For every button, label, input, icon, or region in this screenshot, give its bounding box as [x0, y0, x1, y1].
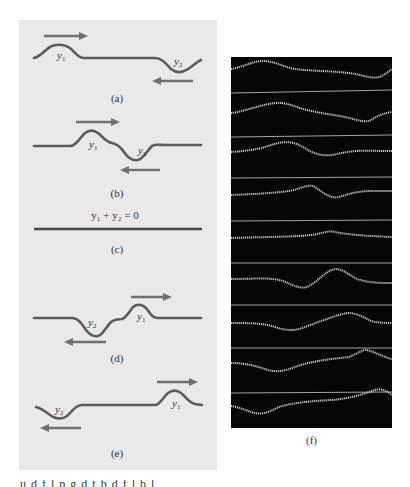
photo-frame-6: [231, 269, 392, 288]
label-y1-e: y1: [171, 397, 181, 411]
cropped-text-line: u d f l p g d t b d f l b l: [20, 480, 410, 487]
arrow-right-head-e: [189, 378, 198, 386]
photo-frame-4: [231, 186, 392, 198]
arrow-left-head-a: [152, 77, 161, 85]
label-y1-a: y1: [56, 49, 66, 63]
arrow-right-head-b: [111, 118, 120, 126]
label-y2-b: y2: [137, 144, 147, 158]
caption-d: (d): [111, 352, 124, 365]
string-wave-b: [34, 131, 201, 160]
label-y2-a: y2: [173, 55, 183, 69]
photo-frames: [231, 57, 392, 428]
panel-b: y1 y2 (b): [34, 118, 201, 200]
photo-frame-2: [231, 103, 392, 121]
photo-frame-7: [231, 313, 392, 330]
caption-f: (f): [231, 434, 392, 446]
arrow-left-head-e: [40, 424, 49, 432]
cropped-body-text: u d f l p g d t b d f l b l: [20, 480, 410, 487]
equation-c: y₁ + y₂ = 0: [91, 209, 139, 221]
label-y2-e: y2: [54, 403, 64, 417]
panel-d: y1 y2 (d): [34, 293, 201, 365]
photo-frame-1: [231, 61, 392, 78]
photo-flat-3: [231, 177, 392, 178]
label-y1-b: y1: [88, 138, 98, 152]
photo-frame-8: [231, 350, 392, 371]
label-y2-d: y2: [87, 316, 97, 330]
arrow-left-head-d: [64, 338, 73, 346]
caption-b: (b): [111, 187, 124, 200]
string-wave-d: [34, 305, 201, 336]
arrow-left-head-b: [120, 166, 129, 174]
caption-a: (a): [111, 92, 124, 105]
panel-c: y₁ + y₂ = 0 (c): [34, 209, 202, 256]
caption-e: (e): [111, 447, 124, 460]
label-y1-d: y1: [136, 310, 146, 324]
panel-a: y1 y2 (a): [34, 32, 201, 105]
photo-flat-4: [231, 220, 392, 221]
photo-frame-5: [231, 231, 392, 238]
arrow-right-head-d: [163, 293, 172, 301]
caption-c: (c): [111, 243, 124, 256]
arrow-right-head-a: [79, 32, 88, 40]
photo-frame-3: [231, 142, 392, 155]
photo-flat-1: [231, 90, 392, 93]
photo-flat-2: [231, 135, 392, 137]
panel-e: y1 y2 (e): [36, 378, 202, 460]
multiflash-photo: [231, 57, 392, 428]
